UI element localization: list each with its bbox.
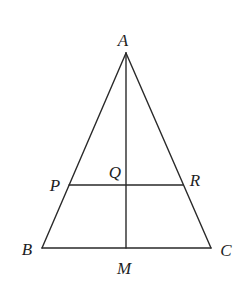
segments bbox=[42, 53, 211, 248]
label-Q: Q bbox=[109, 163, 121, 182]
label-C: C bbox=[220, 241, 232, 260]
diagram-canvas: A B C M P Q R bbox=[0, 0, 245, 297]
label-R: R bbox=[189, 171, 201, 190]
label-B: B bbox=[22, 240, 33, 259]
segment-AC bbox=[126, 53, 211, 248]
segment-AB bbox=[42, 53, 126, 248]
label-P: P bbox=[49, 176, 60, 195]
label-A: A bbox=[117, 31, 129, 50]
label-M: M bbox=[116, 259, 132, 278]
point-labels: A B C M P Q R bbox=[22, 31, 233, 278]
triangle-figure: A B C M P Q R bbox=[0, 0, 245, 297]
